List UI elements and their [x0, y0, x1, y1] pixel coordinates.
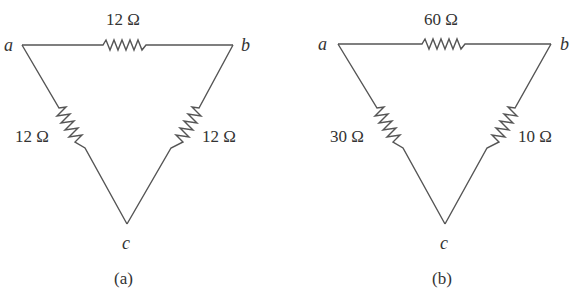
resistor-ac-value-diagram-b: 30 Ω	[330, 128, 364, 145]
node-a-label-diagram-a: a	[4, 36, 13, 54]
node-c-label-diagram-a: c	[122, 234, 130, 252]
resistor-ac-value-diagram-a: 12 Ω	[15, 128, 49, 145]
branch-ab-a	[22, 40, 233, 50]
resistor-bc-value-diagram-a: 12 Ω	[202, 128, 236, 145]
node-b-label-diagram-b: b	[560, 35, 569, 53]
resistor-ab-value-diagram-b: 60 Ω	[424, 11, 458, 28]
node-b-label-diagram-a: b	[241, 36, 250, 54]
branch-ab-b	[338, 39, 551, 49]
node-a-label-diagram-b: a	[318, 35, 327, 53]
resistor-ab-value-diagram-a: 12 Ω	[106, 11, 140, 28]
resistor-bc-value-diagram-b: 10 Ω	[518, 128, 552, 145]
caption-diagram-a: (a)	[114, 270, 133, 287]
node-c-label-diagram-b: c	[440, 234, 448, 252]
caption-diagram-b: (b)	[432, 270, 452, 287]
circuit-canvas	[0, 0, 571, 297]
